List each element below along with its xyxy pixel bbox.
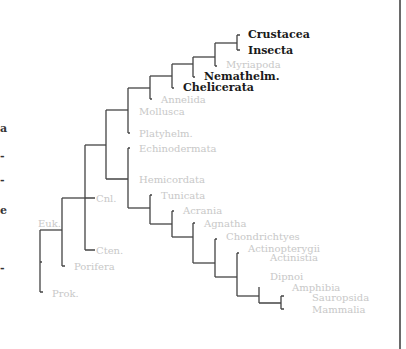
taxon-label-tunicata: Tunicata <box>161 190 205 201</box>
taxon-label-mollusca: Mollusca <box>139 106 185 117</box>
taxon-label-echinodermata: Echinodermata <box>139 143 217 154</box>
taxon-label-cnl: Cnl. <box>96 193 116 204</box>
taxon-label-prok: Prok. <box>52 288 79 299</box>
taxon-label-dipnoi: Dipnoi <box>270 271 303 282</box>
taxon-label-cten: Cten. <box>96 245 123 256</box>
taxon-label-porifera: Porifera <box>74 261 115 272</box>
taxon-label-chelicerata: Chelicerata <box>183 82 254 93</box>
taxon-label-chondrichtyes: Chondrichtyes <box>226 231 300 242</box>
taxon-label-actinistia: Actinistia <box>270 252 318 263</box>
figure-border-line <box>399 0 401 349</box>
taxon-label-insecta: Insecta <box>248 45 293 56</box>
taxon-label-mammalia: Mammalia <box>312 304 366 315</box>
taxon-label-sauropsida: Sauropsida <box>312 292 369 303</box>
taxon-label-crustacea: Crustacea <box>248 29 310 40</box>
taxon-label-myriapoda: Myriapoda <box>226 59 281 70</box>
taxon-label-annelida: Annelida <box>161 94 206 105</box>
taxon-label-platyhelm: Platyhelm. <box>139 128 193 139</box>
taxon-label-euk: Euk. <box>38 218 61 229</box>
taxon-label-hemicordata: Hemicordata <box>139 174 205 185</box>
taxon-label-agnatha: Agnatha <box>204 218 246 229</box>
phylogenetic-tree-figure: a - - e - <box>0 0 406 349</box>
taxon-label-acrania: Acrania <box>183 205 222 216</box>
